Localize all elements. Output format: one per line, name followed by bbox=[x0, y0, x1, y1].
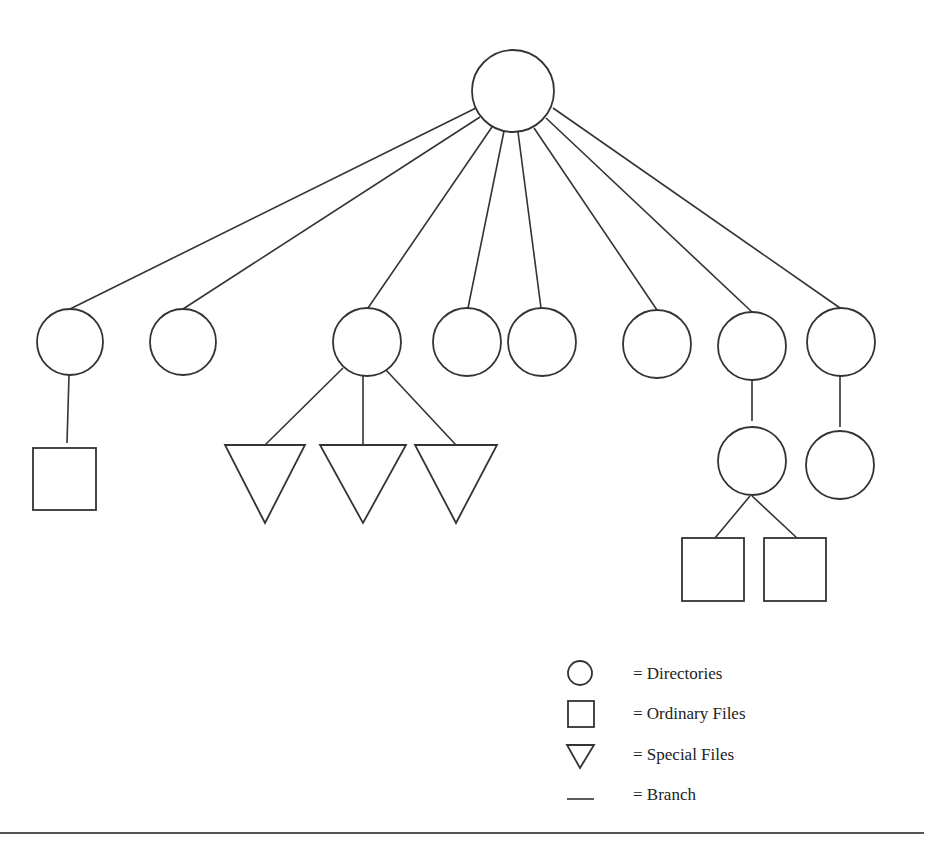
ordinary-file-node bbox=[682, 538, 744, 601]
directory-node bbox=[37, 309, 103, 375]
directory-node bbox=[433, 308, 501, 376]
special-file-node bbox=[320, 445, 406, 523]
directory-tree-diagram: = Directories = Ordinary Files = Special… bbox=[0, 0, 941, 865]
ordinary-file-node bbox=[33, 448, 96, 510]
branches bbox=[67, 108, 840, 538]
special-file-node bbox=[225, 445, 305, 523]
special-file-node bbox=[415, 445, 497, 523]
directory-node bbox=[623, 310, 691, 378]
branch-line bbox=[518, 132, 541, 308]
legend-label-branch: = Branch bbox=[633, 785, 696, 804]
legend-label-ordinary-files: = Ordinary Files bbox=[633, 704, 746, 723]
branch-line bbox=[534, 128, 657, 310]
branch-line bbox=[70, 108, 476, 309]
directory-node bbox=[807, 308, 875, 376]
branch-line bbox=[386, 370, 456, 445]
tree-nodes bbox=[33, 50, 875, 601]
branch-line bbox=[553, 108, 840, 308]
branch-line bbox=[752, 496, 797, 538]
legend-label-directories: = Directories bbox=[633, 664, 722, 683]
branch-line bbox=[183, 117, 480, 309]
directory-node bbox=[508, 308, 576, 376]
directory-node bbox=[150, 309, 216, 375]
directory-node bbox=[718, 427, 786, 495]
directory-node bbox=[333, 308, 401, 376]
directory-node bbox=[718, 312, 786, 380]
legend-ordinary-file-icon bbox=[568, 701, 594, 727]
root-directory-node bbox=[472, 50, 554, 132]
legend-special-file-icon bbox=[567, 745, 594, 768]
ordinary-file-node bbox=[764, 538, 826, 601]
legend: = Directories = Ordinary Files = Special… bbox=[567, 661, 746, 804]
branch-line bbox=[715, 496, 750, 538]
branch-line bbox=[265, 368, 343, 445]
legend-label-special-files: = Special Files bbox=[633, 745, 734, 764]
branch-line bbox=[468, 131, 504, 308]
directory-node bbox=[806, 431, 874, 499]
branch-line bbox=[67, 375, 69, 443]
branch-line bbox=[546, 118, 752, 312]
legend-directory-icon bbox=[568, 661, 592, 685]
